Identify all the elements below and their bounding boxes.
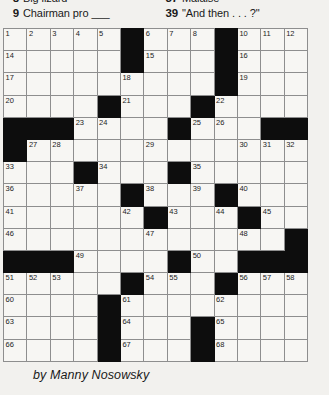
- crossword-cell[interactable]: 35: [191, 162, 214, 184]
- crossword-cell[interactable]: [237, 339, 260, 361]
- crossword-cell[interactable]: [261, 95, 284, 117]
- crossword-cell[interactable]: [50, 317, 73, 339]
- crossword-cell[interactable]: 14: [4, 51, 27, 73]
- crossword-cell[interactable]: [144, 117, 167, 139]
- crossword-cell[interactable]: 48: [237, 228, 260, 250]
- crossword-cell[interactable]: [74, 206, 97, 228]
- crossword-cell[interactable]: 12: [284, 29, 307, 51]
- crossword-cell[interactable]: [50, 228, 73, 250]
- crossword-cell[interactable]: [50, 339, 73, 361]
- crossword-cell[interactable]: [191, 73, 214, 95]
- crossword-cell[interactable]: [50, 51, 73, 73]
- crossword-cell[interactable]: [214, 139, 237, 161]
- crossword-cell[interactable]: [27, 162, 50, 184]
- crossword-cell[interactable]: [261, 339, 284, 361]
- crossword-cell[interactable]: [50, 206, 73, 228]
- crossword-cell[interactable]: 27: [27, 139, 50, 161]
- crossword-cell[interactable]: 55: [167, 273, 190, 295]
- crossword-cell[interactable]: 21: [120, 95, 143, 117]
- crossword-cell[interactable]: [191, 206, 214, 228]
- crossword-cell[interactable]: 61: [120, 295, 143, 317]
- crossword-cell[interactable]: [261, 295, 284, 317]
- crossword-cell[interactable]: 10: [237, 29, 260, 51]
- crossword-cell[interactable]: [27, 339, 50, 361]
- crossword-cell[interactable]: [261, 228, 284, 250]
- crossword-cell[interactable]: [144, 95, 167, 117]
- crossword-cell[interactable]: [237, 317, 260, 339]
- crossword-cell[interactable]: 20: [4, 95, 27, 117]
- crossword-cell[interactable]: [97, 139, 120, 161]
- crossword-cell[interactable]: 46: [4, 228, 27, 250]
- crossword-cell[interactable]: [261, 162, 284, 184]
- crossword-cell[interactable]: 24: [97, 117, 120, 139]
- crossword-cell[interactable]: [167, 73, 190, 95]
- crossword-cell[interactable]: [237, 95, 260, 117]
- crossword-cell[interactable]: [284, 184, 307, 206]
- crossword-cell[interactable]: [167, 295, 190, 317]
- crossword-cell[interactable]: [97, 206, 120, 228]
- crossword-cell[interactable]: 1: [4, 29, 27, 51]
- crossword-cell[interactable]: 41: [4, 206, 27, 228]
- crossword-cell[interactable]: [27, 317, 50, 339]
- crossword-cell[interactable]: 37: [74, 184, 97, 206]
- crossword-cell[interactable]: 45: [261, 206, 284, 228]
- crossword-cell[interactable]: 54: [144, 273, 167, 295]
- crossword-cell[interactable]: 17: [4, 73, 27, 95]
- crossword-cell[interactable]: 16: [237, 51, 260, 73]
- clue-item[interactable]: 9Chairman pro ___: [4, 6, 164, 21]
- crossword-cell[interactable]: 60: [4, 295, 27, 317]
- crossword-cell[interactable]: 11: [261, 29, 284, 51]
- crossword-cell[interactable]: [50, 162, 73, 184]
- crossword-cell[interactable]: [74, 339, 97, 361]
- crossword-cell[interactable]: [284, 339, 307, 361]
- crossword-cell[interactable]: 52: [27, 273, 50, 295]
- crossword-cell[interactable]: [74, 295, 97, 317]
- crossword-cell[interactable]: [261, 317, 284, 339]
- crossword-cell[interactable]: [191, 273, 214, 295]
- crossword-cell[interactable]: [97, 273, 120, 295]
- crossword-cell[interactable]: [284, 51, 307, 73]
- crossword-cell[interactable]: 67: [120, 339, 143, 361]
- crossword-cell[interactable]: [120, 162, 143, 184]
- crossword-cell[interactable]: [237, 295, 260, 317]
- crossword-cell[interactable]: [261, 51, 284, 73]
- crossword-cell[interactable]: [167, 184, 190, 206]
- crossword-cell[interactable]: [74, 139, 97, 161]
- crossword-cell[interactable]: [284, 73, 307, 95]
- crossword-cell[interactable]: [167, 139, 190, 161]
- crossword-cell[interactable]: 34: [97, 162, 120, 184]
- crossword-cell[interactable]: 26: [214, 117, 237, 139]
- crossword-cell[interactable]: 57: [261, 273, 284, 295]
- crossword-cell[interactable]: 50: [191, 250, 214, 272]
- crossword-cell[interactable]: [27, 73, 50, 95]
- crossword-cell[interactable]: 53: [50, 273, 73, 295]
- crossword-cell[interactable]: [97, 73, 120, 95]
- crossword-cell[interactable]: [214, 162, 237, 184]
- crossword-cell[interactable]: [27, 295, 50, 317]
- crossword-cell[interactable]: [237, 117, 260, 139]
- crossword-cell[interactable]: [167, 339, 190, 361]
- crossword-cell[interactable]: [74, 95, 97, 117]
- crossword-cell[interactable]: 38: [144, 184, 167, 206]
- crossword-cell[interactable]: [74, 273, 97, 295]
- crossword-cell[interactable]: 39: [191, 184, 214, 206]
- crossword-cell[interactable]: [50, 73, 73, 95]
- crossword-cell[interactable]: [167, 317, 190, 339]
- crossword-cell[interactable]: [74, 317, 97, 339]
- crossword-cell[interactable]: 22: [214, 95, 237, 117]
- crossword-cell[interactable]: 66: [4, 339, 27, 361]
- crossword-cell[interactable]: 18: [120, 73, 143, 95]
- crossword-cell[interactable]: 31: [261, 139, 284, 161]
- crossword-cell[interactable]: 44: [214, 206, 237, 228]
- crossword-cell[interactable]: 19: [237, 73, 260, 95]
- crossword-cell[interactable]: 4: [74, 29, 97, 51]
- crossword-cell[interactable]: 51: [4, 273, 27, 295]
- crossword-cell[interactable]: [284, 317, 307, 339]
- crossword-cell[interactable]: [237, 162, 260, 184]
- crossword-cell[interactable]: 42: [120, 206, 143, 228]
- crossword-cell[interactable]: [120, 228, 143, 250]
- crossword-cell[interactable]: 36: [4, 184, 27, 206]
- crossword-cell[interactable]: [167, 228, 190, 250]
- crossword-cell[interactable]: 58: [284, 273, 307, 295]
- crossword-cell[interactable]: [284, 295, 307, 317]
